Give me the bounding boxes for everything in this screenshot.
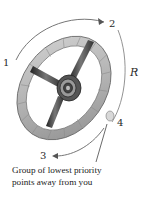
leader-line bbox=[96, 124, 107, 162]
label-point-2: 2 bbox=[109, 19, 115, 29]
label-point-1: 1 bbox=[3, 58, 9, 68]
label-radius: R bbox=[130, 67, 138, 78]
label-point-4: 4 bbox=[117, 118, 123, 128]
caption-line-1: Group of lowest priority bbox=[12, 164, 147, 176]
label-point-3: 3 bbox=[40, 151, 46, 161]
caption-line-2: points away from you bbox=[12, 176, 147, 188]
steering-wheel-diagram: 1 2 3 4 R Group of lowest priority point… bbox=[0, 0, 149, 204]
steering-column bbox=[106, 111, 114, 121]
caption: Group of lowest priority points away fro… bbox=[12, 164, 147, 188]
radius-arc bbox=[112, 30, 125, 122]
